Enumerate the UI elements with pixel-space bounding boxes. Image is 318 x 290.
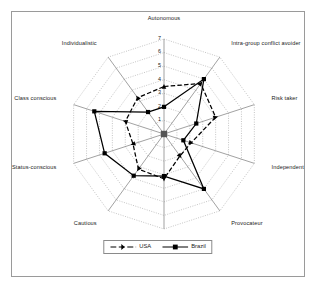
axis-label-individualistic: Individualistic — [62, 41, 97, 47]
legend-label-usa: USA — [139, 244, 151, 250]
axis-spoke — [164, 134, 220, 211]
legend-item-usa[interactable]: USA — [110, 243, 151, 251]
data-point-marker — [135, 166, 142, 173]
legend-item-brazil[interactable]: Brazil — [162, 243, 206, 251]
radial-tick-1: 1 — [154, 117, 161, 122]
data-point-marker — [132, 174, 136, 178]
axis-spoke — [74, 134, 164, 163]
center-marker — [161, 131, 167, 137]
data-point-marker — [103, 151, 107, 155]
radial-tick-3: 3 — [154, 90, 161, 95]
radial-tick-6: 6 — [154, 49, 161, 54]
legend-label-brazil: Brazil — [191, 244, 206, 250]
axis-label-class-conscious: Class conscious — [14, 96, 56, 102]
data-point-marker — [188, 140, 194, 146]
axis-label-provocateur: Provocateur — [231, 221, 262, 227]
legend-swatch-usa — [110, 243, 136, 251]
data-point-marker — [162, 105, 166, 109]
axis-label-intra-group-conflict-avoider: Intra-group conflict avoider — [231, 41, 300, 47]
radial-tick-2: 2 — [154, 104, 161, 109]
chart-legend: USA Brazil — [103, 240, 212, 254]
data-point-marker — [202, 77, 206, 81]
axis-spoke — [164, 105, 254, 134]
data-point-marker — [181, 138, 185, 142]
axis-label-status-conscious: Status-conscious — [12, 165, 56, 171]
axis-spoke — [74, 105, 164, 134]
axis-label-independent: Independent — [272, 165, 304, 171]
data-point-marker — [162, 174, 166, 178]
axis-label-cautious: Cautious — [74, 221, 97, 227]
axis-label-autonomous: Autonomous — [148, 16, 181, 22]
chart-figure: AutonomousIntra-group conflict avoiderRi… — [11, 11, 305, 277]
radial-tick-5: 5 — [154, 63, 161, 68]
axis-label-risk-taker: Risk taker — [272, 96, 298, 102]
center-hub — [161, 131, 167, 137]
data-point-marker — [194, 121, 198, 125]
data-point-marker — [202, 187, 206, 191]
series-polygon-brazil — [94, 79, 204, 189]
data-point-marker — [146, 110, 150, 114]
legend-swatch-brazil — [162, 243, 188, 251]
data-point-marker — [92, 109, 96, 113]
axis-spoke — [164, 57, 220, 134]
data-point-marker — [134, 94, 141, 101]
radial-tick-7: 7 — [154, 36, 161, 41]
radial-tick-4: 4 — [154, 77, 161, 82]
